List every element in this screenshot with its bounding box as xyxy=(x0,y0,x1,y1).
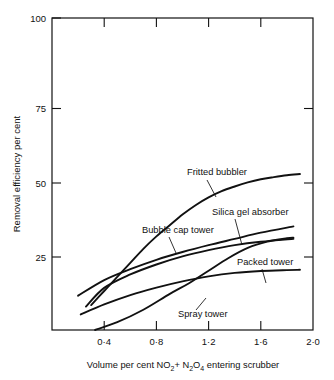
plot-frame xyxy=(52,18,313,330)
y-tick-label-25: 25 xyxy=(35,252,46,263)
y-tick-labels: 100 75 50 25 xyxy=(30,13,46,263)
annotation-bubble-cap-tower: Bubble cap tower xyxy=(142,225,214,235)
x-axis-title-mid2: O xyxy=(193,360,200,370)
x-axis-title-mid: + N xyxy=(174,360,189,370)
x-axis-title-post: entering scrubber xyxy=(204,360,279,370)
x-tick-label-2-0: 2·0 xyxy=(306,336,320,347)
chart-figure: 100 75 50 25 0·4 0·8 1·2 1·6 2·0 Removal… xyxy=(0,0,334,380)
y-axis-ticks xyxy=(52,18,61,257)
annotation-silica-gel-absorber: Silica gel absorber xyxy=(212,207,288,217)
x-tick-label-0-4: 0·4 xyxy=(97,336,111,347)
leader-silica-gel-absorber xyxy=(235,219,242,245)
x-tick-label-1-6: 1·6 xyxy=(254,336,268,347)
x-axis-ticks-bottom xyxy=(104,321,261,330)
y-tick-label-100: 100 xyxy=(30,13,46,24)
x-tick-label-1-2: 1·2 xyxy=(202,336,216,347)
x-tick-labels: 0·4 0·8 1·2 1·6 2·0 xyxy=(97,336,320,347)
leader-bubble-cap-tower xyxy=(169,237,176,253)
line-chart: 100 75 50 25 0·4 0·8 1·2 1·6 2·0 Removal… xyxy=(0,0,334,380)
y-axis-ticks-right xyxy=(304,109,313,258)
curve-fritted-bubbler xyxy=(91,174,300,305)
x-tick-label-0-8: 0·8 xyxy=(150,336,164,347)
annotation-fritted-bubbler: Fritted bubbler xyxy=(187,167,247,177)
annotation-packed-tower: Packed tower xyxy=(237,257,293,267)
annotation-spray-tower: Spray tower xyxy=(178,309,228,319)
data-curves xyxy=(78,174,300,330)
x-axis-title: Volume per cent NO2+ N2O4 entering scrub… xyxy=(87,360,279,372)
x-axis-title-pre: Volume per cent NO xyxy=(87,360,171,370)
y-tick-label-75: 75 xyxy=(35,103,46,114)
y-axis-title: Removal efficiency per cent xyxy=(11,115,22,232)
x-axis-ticks-top xyxy=(104,18,261,27)
leader-fritted-bubbler xyxy=(207,180,216,197)
y-tick-label-50: 50 xyxy=(35,178,46,189)
